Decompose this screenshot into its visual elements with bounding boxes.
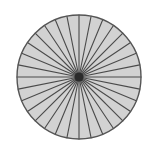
- sectored-circle-diagram: [0, 0, 157, 155]
- figure-root: [0, 0, 157, 155]
- center-hub: [75, 73, 84, 82]
